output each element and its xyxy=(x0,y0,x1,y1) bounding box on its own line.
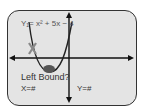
left-bound-prompt: Left Bound? xyxy=(21,73,70,82)
x-axis-left-arrow-icon xyxy=(9,55,15,61)
x-readout: X=# xyxy=(21,84,35,93)
y-axis-up-arrow-icon xyxy=(66,12,72,18)
x-axis-right-arrow-icon xyxy=(128,55,134,61)
y-axis-down-arrow-icon xyxy=(66,97,72,103)
parabola-curve xyxy=(29,22,72,72)
y-readout: Y=# xyxy=(77,84,91,93)
graph xyxy=(0,0,142,111)
equation-label: Y₁= x² + 5x − 4 xyxy=(21,19,74,28)
